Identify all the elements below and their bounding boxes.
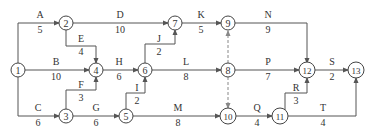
label-I: I [135, 82, 138, 93]
label-R: R [293, 82, 300, 93]
label-S: S [329, 56, 335, 67]
duration-J: 2 [157, 46, 162, 57]
node-11: 11 [272, 108, 288, 124]
svg-text:9: 9 [226, 18, 231, 29]
activity-labels: A 5 B 10 C 6 D 10 E 4 F 3 G 6 H 6 I 2 J … [35, 9, 335, 128]
label-M: M [174, 102, 183, 113]
duration-M: 8 [176, 117, 181, 128]
svg-text:12: 12 [303, 66, 312, 76]
label-K: K [197, 9, 205, 20]
duration-I: 2 [135, 95, 140, 106]
duration-S: 2 [330, 71, 335, 82]
duration-B: 10 [51, 71, 61, 82]
label-T: T [320, 102, 326, 113]
svg-text:6: 6 [143, 65, 148, 76]
label-D: D [116, 9, 123, 20]
label-B: B [53, 56, 60, 67]
duration-L: 8 [184, 71, 189, 82]
duration-R: 3 [294, 95, 299, 106]
duration-F: 3 [79, 92, 84, 103]
label-P: P [265, 56, 271, 67]
duration-T: 4 [321, 117, 326, 128]
node-5: 5 [119, 109, 133, 123]
label-G: G [92, 102, 99, 113]
svg-text:5: 5 [124, 111, 129, 122]
node-3: 3 [59, 109, 73, 123]
label-C: C [35, 102, 42, 113]
node-1: 1 [11, 63, 25, 77]
duration-A: 5 [38, 24, 43, 35]
svg-text:8: 8 [226, 65, 231, 76]
duration-H: 6 [117, 71, 122, 82]
label-F: F [78, 79, 84, 90]
node-8: 8 [221, 63, 235, 77]
duration-N: 9 [266, 24, 271, 35]
node-12: 12 [299, 62, 315, 78]
duration-Q: 4 [255, 117, 260, 128]
label-H: H [115, 56, 122, 67]
label-A: A [36, 9, 44, 20]
duration-P: 7 [266, 71, 271, 82]
svg-text:7: 7 [173, 18, 178, 29]
svg-text:2: 2 [64, 18, 69, 29]
node-7: 7 [168, 16, 182, 30]
duration-K: 5 [199, 24, 204, 35]
node-6: 6 [138, 63, 152, 77]
duration-D: 10 [115, 24, 125, 35]
node-4: 4 [89, 63, 103, 77]
svg-text:11: 11 [276, 112, 285, 122]
svg-text:3: 3 [64, 111, 69, 122]
node-9: 9 [221, 16, 235, 30]
duration-C: 6 [36, 117, 41, 128]
label-Q: Q [253, 102, 261, 113]
duration-E: 4 [79, 46, 84, 57]
svg-text:1: 1 [16, 65, 21, 76]
node-13: 13 [348, 62, 364, 78]
label-L: L [183, 56, 189, 67]
node-2: 2 [59, 16, 73, 30]
svg-text:10: 10 [224, 112, 234, 122]
svg-text:13: 13 [352, 66, 362, 76]
label-J: J [157, 33, 161, 44]
network-diagram: A 5 B 10 C 6 D 10 E 4 F 3 G 6 H 6 I 2 J … [0, 0, 375, 135]
svg-text:4: 4 [94, 65, 99, 76]
label-E: E [78, 33, 84, 44]
edge-N [235, 23, 307, 63]
duration-G: 6 [94, 117, 99, 128]
label-N: N [264, 9, 271, 20]
node-10: 10 [220, 108, 236, 124]
